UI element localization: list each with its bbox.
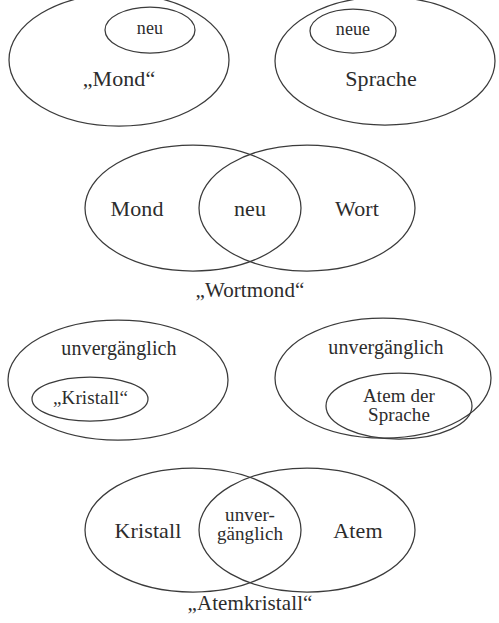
label-unvergaenglich-left: unvergänglich: [33, 338, 205, 359]
label-venn-left-kristall: Kristall: [94, 519, 202, 542]
label-atem-der-sprache-inner: Atem der Sprache: [341, 386, 457, 425]
label-venn-center-neu: neu: [213, 197, 287, 220]
caption-wortmond: „Wortmond“: [160, 279, 340, 301]
label-venn-center-line1: unver-: [207, 505, 293, 524]
label-kristall-inner: „Kristall“: [33, 388, 148, 408]
label-sprache-outer: Sprache: [311, 67, 451, 90]
label-atem-der-sprache-line1: Atem der: [341, 386, 457, 405]
label-venn-left-mond: Mond: [90, 197, 184, 220]
label-mond-outer: „Mond“: [49, 67, 189, 90]
label-neu-inner: neu: [105, 19, 195, 38]
label-venn-center-line2: gänglich: [207, 524, 293, 543]
label-venn-center-unvergaenglich: unver- gänglich: [207, 505, 293, 544]
label-neue-inner: neue: [310, 20, 396, 39]
caption-atemkristall: „Atemkristall“: [150, 592, 350, 614]
label-unvergaenglich-right: unvergänglich: [300, 337, 472, 358]
venn-figure: neu „Mond“ neue Sprache Mond neu Wort „W…: [0, 0, 499, 623]
label-venn-right-atem: Atem: [312, 519, 404, 542]
ellipse-outer-sprache: [275, 0, 495, 125]
label-atem-der-sprache-line2: Sprache: [341, 405, 457, 424]
label-venn-right-wort: Wort: [312, 197, 402, 220]
